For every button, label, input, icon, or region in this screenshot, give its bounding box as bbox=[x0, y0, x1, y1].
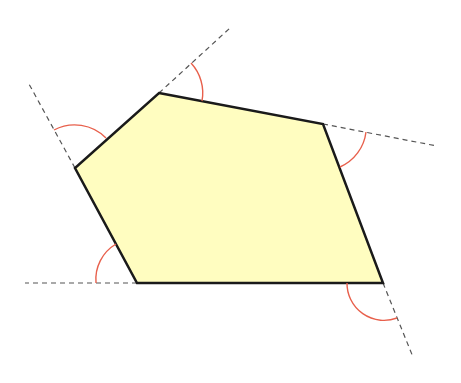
exterior-angle-arc-bottom-right bbox=[347, 283, 397, 320]
extension-line-left bbox=[29, 84, 75, 168]
exterior-angle-arc-left bbox=[54, 125, 106, 138]
exterior-angle-arc-top bbox=[191, 63, 203, 101]
extension-line-top bbox=[159, 28, 230, 93]
exterior-angle-arc-right bbox=[340, 132, 366, 167]
pentagon-shape bbox=[75, 93, 383, 283]
extension-line-right bbox=[323, 124, 437, 146]
exterior-angle-arc-bottom-left bbox=[96, 244, 116, 283]
diagram-canvas bbox=[0, 0, 461, 383]
pentagon-exterior-angles-diagram bbox=[0, 0, 461, 383]
